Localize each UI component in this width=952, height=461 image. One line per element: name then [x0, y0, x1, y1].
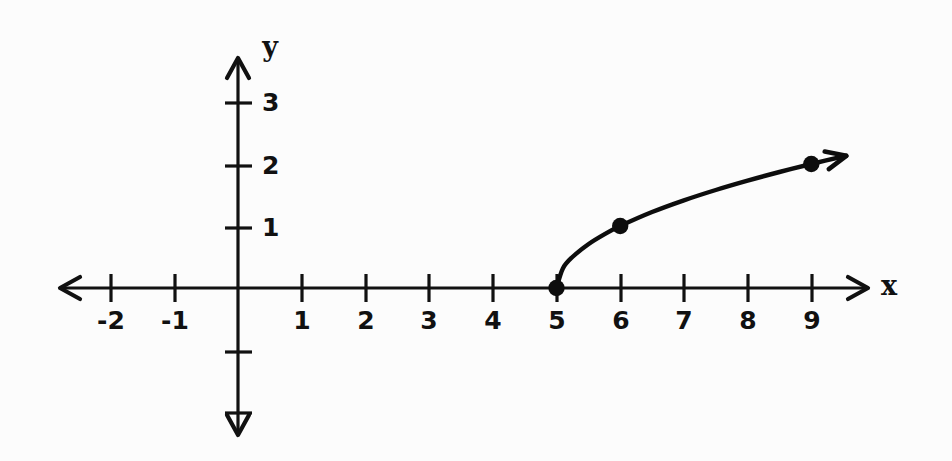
x-tick-label-8: 8 [739, 306, 756, 335]
graph-figure: -2 -1 1 2 3 4 5 6 7 8 9 3 2 1 x y [0, 0, 952, 461]
y-tick-label-2: 2 [262, 151, 279, 180]
x-tick-label-4: 4 [484, 306, 501, 335]
x-tick-label-7: 7 [675, 306, 692, 335]
x-tick-label-2: 2 [357, 306, 374, 335]
x-axis-label: x [881, 270, 898, 301]
x-tick-label--2: -2 [97, 306, 125, 335]
y-axis-tick-labels: 3 2 1 [262, 88, 279, 242]
y-axis-group [227, 58, 249, 435]
y-tick-label-1: 1 [262, 213, 279, 242]
plot-point [803, 156, 819, 172]
x-tick-label-1: 1 [293, 306, 310, 335]
plot-point [548, 280, 564, 296]
square-root-curve [557, 156, 847, 288]
y-axis-label: y [261, 31, 279, 62]
plot-point [612, 218, 628, 234]
function-curve-group [557, 152, 847, 288]
coordinate-plane-svg: -2 -1 1 2 3 4 5 6 7 8 9 3 2 1 x y [0, 0, 952, 461]
y-tick-label-3: 3 [262, 88, 279, 117]
x-tick-label-5: 5 [548, 306, 565, 335]
x-tick-label-3: 3 [420, 306, 437, 335]
x-axis-tick-labels: -2 -1 1 2 3 4 5 6 7 8 9 [97, 306, 821, 335]
x-tick-label--1: -1 [161, 306, 189, 335]
x-tick-label-6: 6 [612, 306, 629, 335]
x-tick-label-9: 9 [803, 306, 820, 335]
